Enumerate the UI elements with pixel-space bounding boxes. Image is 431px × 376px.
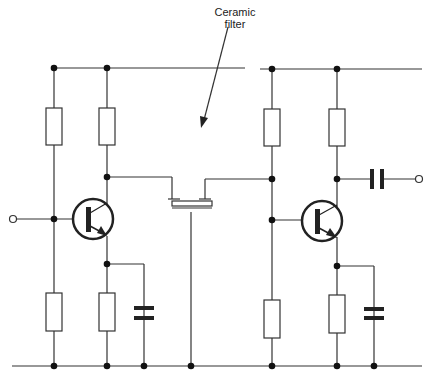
arrowhead-icon	[200, 116, 208, 128]
transistor-1	[73, 199, 113, 239]
label-line-2: filter	[205, 18, 265, 30]
label-line-1: Ceramic	[205, 6, 265, 18]
collector-resistor-2	[329, 109, 345, 146]
emitter-resistor-2	[329, 295, 345, 333]
emitter-capacitor-1-plate-a	[134, 306, 154, 310]
bias-resistor-bottom-1	[46, 293, 62, 331]
ceramic-filter-label: Ceramic filter	[205, 6, 265, 30]
emitter-capacitor-1-plate-b	[134, 316, 154, 320]
output-capacitor-plate-a	[370, 169, 374, 189]
output-terminal	[416, 176, 423, 183]
emitter-resistor-1	[99, 293, 115, 331]
bias-resistor-top-1	[46, 108, 62, 145]
ceramic-filter	[168, 199, 212, 208]
circuit-diagram	[0, 0, 431, 376]
bias-resistor-top-2	[264, 109, 280, 146]
output-capacitor-plate-b	[380, 169, 384, 189]
emitter-capacitor-2-plate-a	[364, 307, 384, 311]
collector-resistor-1	[99, 108, 115, 145]
bias-resistor-bottom-2	[264, 300, 280, 338]
emitter-capacitor-2-plate-b	[364, 316, 384, 320]
transistor-2	[302, 201, 342, 241]
input-terminal	[10, 216, 17, 223]
